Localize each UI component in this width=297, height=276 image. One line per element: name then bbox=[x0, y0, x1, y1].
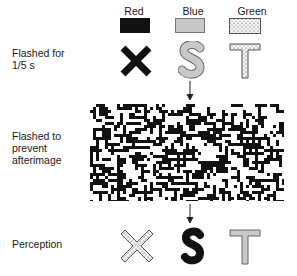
letter-x-stippled bbox=[119, 228, 155, 264]
letter-s-black bbox=[180, 227, 206, 265]
swatch-green bbox=[229, 18, 261, 34]
row-label-flashed: Flashed for 1/5 s bbox=[12, 47, 65, 71]
row-label-mask: Flashed to prevent afterimage bbox=[12, 130, 62, 166]
stipple-pattern-icon bbox=[229, 18, 261, 34]
row-label-mask-line1: Flashed to bbox=[12, 130, 62, 142]
column-label-green: Green bbox=[227, 5, 277, 17]
swatch-red bbox=[120, 18, 150, 33]
swatch-blue bbox=[175, 18, 205, 33]
column-label-blue: Blue bbox=[168, 5, 218, 17]
letter-t-gray bbox=[229, 229, 261, 265]
row-label-flashed-line2: 1/5 s bbox=[12, 59, 65, 71]
letter-t-stippled bbox=[229, 43, 261, 79]
row-label-perception: Perception bbox=[12, 238, 62, 250]
row-label-flashed-line1: Flashed for bbox=[12, 47, 65, 59]
down-arrow-icon bbox=[186, 204, 194, 224]
row-label-mask-line3: afterimage bbox=[12, 154, 62, 166]
row-label-mask-line2: prevent bbox=[12, 142, 62, 154]
letter-s-gray bbox=[178, 41, 206, 79]
noise-mask bbox=[90, 104, 284, 201]
letter-x-black bbox=[119, 44, 153, 78]
down-arrow-icon bbox=[186, 81, 194, 101]
column-label-red: Red bbox=[109, 5, 159, 17]
